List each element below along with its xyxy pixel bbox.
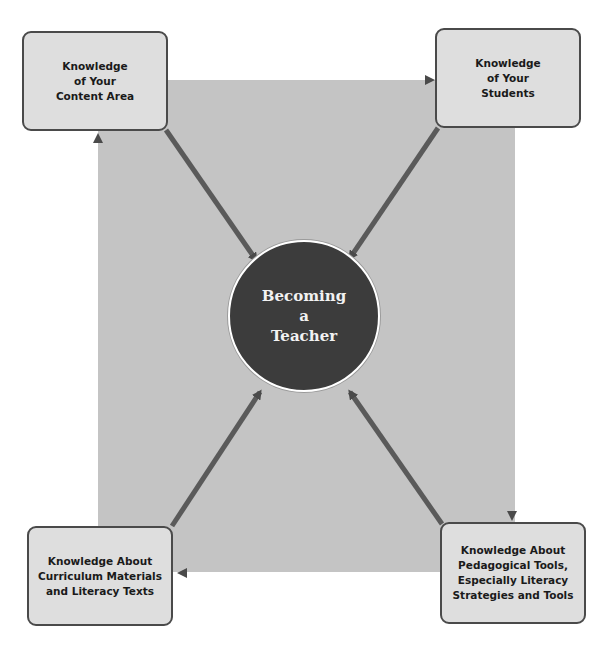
node-students: Knowledge of Your Students <box>435 28 581 128</box>
node-text: Curriculum Materials <box>38 569 162 584</box>
node-text: Students <box>481 86 534 101</box>
center-text: a <box>299 306 309 326</box>
node-curriculum-materials: Knowledge About Curriculum Materials and… <box>27 526 173 626</box>
center-text: Becoming <box>262 286 346 306</box>
node-text: and Literacy Texts <box>46 584 154 599</box>
arrow-curriculum-to-center <box>172 392 260 526</box>
center-text: Teacher <box>271 326 337 346</box>
node-text: Pedagogical Tools, <box>458 558 568 573</box>
node-text: Especially Literacy <box>458 573 568 588</box>
node-text: Knowledge About <box>48 554 152 569</box>
node-content-area: Knowledge of Your Content Area <box>22 31 168 131</box>
node-text: Strategies and Tools <box>453 588 574 603</box>
node-pedagogical-tools: Knowledge About Pedagogical Tools, Espec… <box>440 522 586 624</box>
arrow-pedagogical-to-center <box>350 392 442 524</box>
node-text: of Your <box>74 74 116 89</box>
node-text: Knowledge <box>62 59 127 74</box>
node-text: of Your <box>487 71 529 86</box>
node-text: Knowledge About <box>461 543 565 558</box>
arrow-students-to-center <box>350 128 438 258</box>
arrow-content-to-center <box>166 130 256 260</box>
node-text: Content Area <box>56 89 134 104</box>
center-circle: Becoming a Teacher <box>228 240 380 392</box>
node-text: Knowledge <box>475 56 540 71</box>
